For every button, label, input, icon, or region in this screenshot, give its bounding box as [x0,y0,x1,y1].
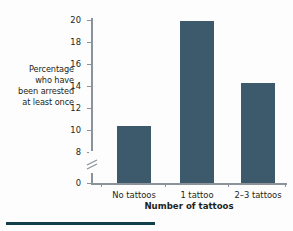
y-tick-label-10: 10 [70,125,81,135]
x-tick-1 [165,183,166,187]
x-axis-spine [91,183,287,185]
x-tick-3 [285,183,286,187]
bar-no-tattoos [117,126,151,183]
y-axis-spine-upper [91,18,93,157]
y-tick-14: 14 [87,86,91,87]
y-tick-16: 16 [87,64,91,65]
bar-chart-figure: Percentage who have been arrested at lea… [0,0,293,231]
bar-2-3-tattoos [241,83,275,183]
x-tick-0 [101,183,102,187]
bottom-divider [6,222,155,225]
axis-break-icon [86,151,99,173]
y-axis-label-line-2: who have [2,75,74,86]
y-tick-18: 18 [87,42,91,43]
y-tick-20: 20 [87,20,91,21]
y-tick-label-14: 14 [70,81,81,91]
y-axis-label-line-4: at least once [2,97,74,108]
x-axis-title: Number of tattoos [91,201,287,211]
y-axis-label-line-3: been arrested [2,86,74,97]
y-tick-10: 10 [87,130,91,131]
x-category-label-no-tattoos: No tattoos [112,190,156,200]
x-category-label-2-3-tattoos: 2–3 tattoos [234,190,281,200]
y-tick-label-16: 16 [70,59,81,69]
y-tick-12: 12 [87,108,91,109]
x-tick-2 [228,183,229,187]
x-category-label-1-tattoo: 1 tattoo [180,190,213,200]
y-tick-0: 0 [87,183,91,184]
y-axis-label: Percentage who have been arrested at lea… [2,64,74,108]
y-axis-label-line-1: Percentage [2,64,74,75]
y-tick-label-0: 0 [76,178,81,188]
y-tick-label-12: 12 [70,103,81,113]
y-tick-label-8: 8 [76,147,81,157]
plot-area: 20 18 16 14 12 10 8 0 [91,18,287,185]
bar-1-tattoo [180,21,214,183]
y-tick-label-20: 20 [70,15,81,25]
y-tick-label-18: 18 [70,37,81,47]
